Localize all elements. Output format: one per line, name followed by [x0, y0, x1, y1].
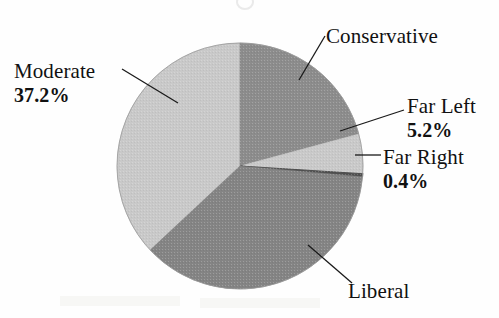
slice-label-far-left-name: Far Left [407, 95, 476, 119]
slice-label-moderate-name: Moderate [14, 60, 95, 84]
slice-label-moderate-percent: 37.2% [14, 84, 95, 106]
slice-label-far-right-percent: 0.4% [383, 170, 464, 192]
pie-texture-overlay [117, 43, 363, 289]
slice-label-far-right: Far Right 0.4% [383, 146, 464, 192]
slice-label-conservative: Conservative [326, 25, 438, 49]
pie-chart-figure: Moderate 37.2% Conservative Far Left 5.2… [0, 0, 499, 318]
slice-label-conservative-name: Conservative [326, 25, 438, 49]
slice-label-far-left: Far Left 5.2% [407, 95, 476, 141]
slice-label-far-right-name: Far Right [383, 146, 464, 170]
slice-label-liberal-name: Liberal [348, 280, 409, 304]
slice-label-far-left-percent: 5.2% [407, 119, 476, 141]
slice-label-liberal: Liberal [348, 280, 409, 304]
slice-label-moderate: Moderate 37.2% [14, 60, 95, 106]
